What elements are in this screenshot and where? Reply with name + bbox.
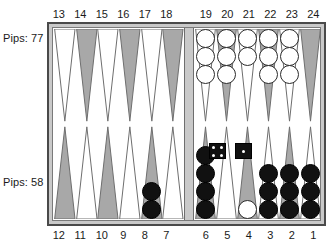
point-number-14: 14 — [70, 8, 92, 22]
die-pip-empty — [220, 149, 223, 152]
point-number-5: 5 — [217, 229, 239, 243]
board-frame — [47, 22, 326, 226]
point-number-3: 3 — [260, 229, 282, 243]
pips-count-bottom: Pips: 58 — [3, 176, 44, 188]
point-number-1: 1 — [303, 229, 325, 243]
pips-count-top: Pips: 77 — [3, 32, 44, 44]
point-number-6: 6 — [195, 229, 217, 243]
die-pip-empty — [237, 153, 240, 156]
board-surface — [52, 27, 321, 221]
die-pip-empty — [246, 153, 249, 156]
point-numbers-bottom: 121110987654321 — [48, 229, 326, 243]
die-pip-empty — [215, 153, 218, 156]
point-number-gap — [177, 8, 195, 22]
die-pip-empty — [237, 149, 240, 152]
point-number-15: 15 — [91, 8, 113, 22]
point-number-7: 7 — [156, 229, 178, 243]
point-numbers-top: 131415161718192021222324 — [48, 8, 326, 22]
point-number-8: 8 — [134, 229, 156, 243]
die-right[interactable] — [235, 143, 252, 159]
point-number-gap — [177, 229, 195, 243]
die-pip-empty — [237, 145, 240, 148]
die-pip — [220, 154, 223, 157]
point-number-24: 24 — [303, 8, 325, 22]
point-number-17: 17 — [134, 8, 156, 22]
point-number-23: 23 — [281, 8, 303, 22]
point-number-22: 22 — [260, 8, 282, 22]
point-number-2: 2 — [281, 229, 303, 243]
die-pip-empty — [241, 153, 244, 156]
point-number-10: 10 — [91, 229, 113, 243]
die-pip-empty — [215, 145, 218, 148]
die-pip-empty — [246, 149, 249, 152]
point-number-12: 12 — [48, 229, 70, 243]
die-pip-empty — [241, 145, 244, 148]
point-number-4: 4 — [238, 229, 260, 243]
point-number-18: 18 — [156, 8, 178, 22]
point-number-19: 19 — [195, 8, 217, 22]
point-number-21: 21 — [238, 8, 260, 22]
point-number-16: 16 — [113, 8, 135, 22]
die-pip-empty — [215, 149, 218, 152]
point-number-13: 13 — [48, 8, 70, 22]
point-number-20: 20 — [217, 8, 239, 22]
point-number-9: 9 — [113, 229, 135, 243]
die-pip-empty — [246, 145, 249, 148]
die-left[interactable] — [209, 143, 226, 159]
point-number-11: 11 — [70, 229, 92, 243]
die-pip — [212, 154, 215, 157]
dice-area — [53, 28, 320, 220]
die-pip-empty — [211, 149, 214, 152]
backgammon-screen: Pips: 77 Pips: 58 1314151617181920212223… — [0, 0, 331, 249]
